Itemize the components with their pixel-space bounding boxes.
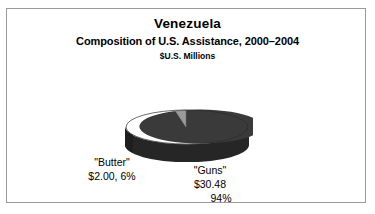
guns-label-name: "Guns" [160,164,260,177]
butter-label-value: $2.00, 6% [62,170,162,183]
chart-figure: Venezuela Composition of U.S. Assistance… [0,0,375,214]
chart-subtitle: Composition of U.S. Assistance, 2000–200… [0,34,375,49]
butter-callout: "Butter" $2.00, 6% [62,156,162,183]
chart-title: Venezuela [0,16,375,32]
guns-callout: "Guns" $30.48 94% [160,164,260,205]
guns-label-value: $30.48 [160,178,260,191]
pie-slice-guns-top [139,110,253,144]
guns-label-percent: 94% [160,192,260,205]
chart-units-label: $U.S. Millions [0,50,375,62]
pie-chart-3d [121,106,253,162]
pie-rim-shadow [125,127,133,153]
title-block: Venezuela Composition of U.S. Assistance… [0,16,375,62]
pie-svg [121,106,253,162]
butter-label-name: "Butter" [62,156,162,169]
